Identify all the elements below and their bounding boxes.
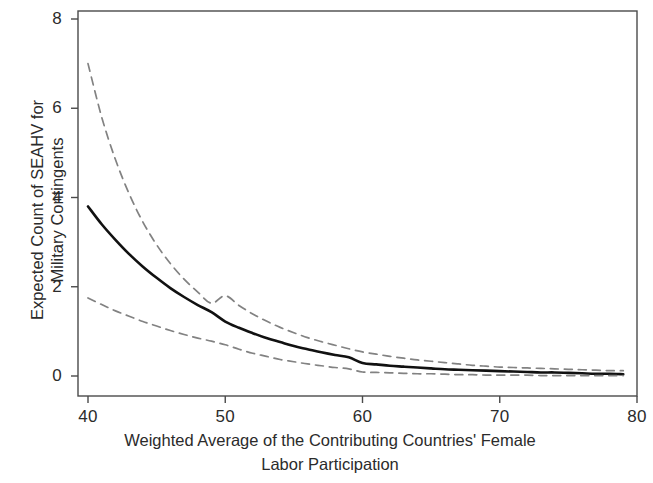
plot-frame [78,11,637,396]
y-axis-title: Expected Count of SEAHV for Military Con… [27,45,67,375]
x-axis-title-line-2: Labor Participation [60,452,600,476]
y-axis-ticks [71,19,78,376]
axis-frame [78,11,637,396]
x-axis-tick-label: 60 [343,407,383,427]
y-axis-tick-label: 8 [38,9,62,29]
x-axis-tick-label: 50 [205,407,245,427]
x-axis-ticks [88,396,637,403]
chart-figure: 02468 4050607080 Expected Count of SEAHV… [0,0,653,483]
x-axis-title-line-1: Weighted Average of the Contributing Cou… [60,428,600,452]
data-series-layer [88,64,623,376]
series-line-2 [88,298,623,376]
x-axis-tick-label: 70 [480,407,520,427]
y-axis-title-line-2: Military Contingents [47,45,67,375]
x-axis-title: Weighted Average of the Contributing Cou… [60,428,600,476]
x-axis-tick-label: 40 [68,407,108,427]
x-axis-tick-label: 80 [617,407,653,427]
series-line-1 [88,206,623,374]
series-line-0 [88,64,623,371]
y-axis-title-line-1: Expected Count of SEAHV for [27,45,47,375]
